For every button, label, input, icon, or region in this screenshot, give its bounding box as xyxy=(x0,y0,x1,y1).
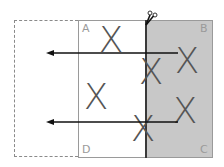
scissors-icon xyxy=(146,11,157,25)
arrow-lower-left xyxy=(46,119,178,125)
arrow-upper-left xyxy=(46,50,178,56)
arrows-and-icons xyxy=(0,0,224,167)
paper-fold-diagram: A B C D X X X X X X xyxy=(0,0,224,167)
